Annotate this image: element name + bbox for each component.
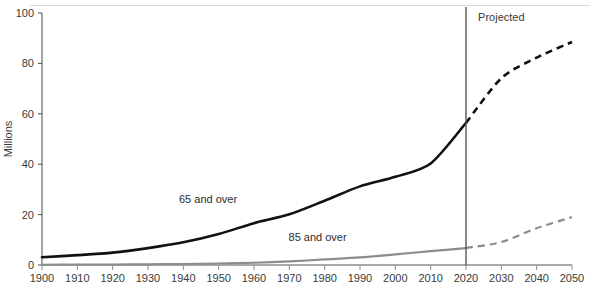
x-tick-label: 1930 [136,272,160,284]
series-85-and-over-solid [42,248,466,265]
series-label-85-and-over: 85 and over [289,231,347,243]
x-tick-label: 1900 [30,272,54,284]
projected-label: Projected [478,11,524,23]
x-tick-label: 2050 [560,272,584,284]
y-axis-title: Millions [2,120,14,157]
x-tick-label: 2000 [383,272,407,284]
series-85-and-over-projected [466,217,572,248]
x-tick-label: 1970 [277,272,301,284]
chart-container: 020406080100 Millions 190019101920193019… [0,0,591,290]
x-tick-label: 2030 [489,272,513,284]
x-tick-label: 2010 [418,272,442,284]
x-axis: 1900191019201930194019501960197019801990… [30,265,584,284]
x-tick-label: 1920 [100,272,124,284]
x-tick-label: 1910 [65,272,89,284]
y-tick-label: 40 [22,158,34,170]
x-tick-label: 2040 [524,272,548,284]
x-tick-label: 2020 [454,272,478,284]
series-label-65-and-over: 65 and over [179,193,237,205]
x-tick-label: 1950 [206,272,230,284]
y-tick-label: 100 [16,7,34,19]
line-chart-svg: 020406080100 Millions 190019101920193019… [0,0,591,290]
y-tick-label: 60 [22,108,34,120]
y-tick-label: 0 [28,259,34,271]
x-tick-label: 1990 [348,272,372,284]
x-tick-label: 1960 [242,272,266,284]
annotations-group: Projected [466,7,525,265]
y-tick-label: 20 [22,209,34,221]
y-tick-label: 80 [22,57,34,69]
x-tick-label: 1940 [171,272,195,284]
series-65-and-over-solid [42,123,466,257]
y-axis: 020406080100 Millions [2,7,42,271]
x-tick-label: 1980 [312,272,336,284]
series-65-and-over-projected [466,42,572,123]
